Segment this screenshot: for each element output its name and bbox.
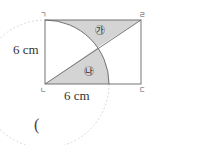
region-label-na: ㉯ [84, 63, 94, 78]
vertex-bottom-right: ㄷ [139, 84, 145, 94]
region-ga-shade [45, 20, 141, 48]
vertex-top-left: ㄱ [40, 9, 46, 19]
answer-blank-paren: ( [34, 116, 39, 134]
vertex-bottom-left: ㄴ [40, 84, 46, 94]
vertex-top-right: ㄹ [139, 9, 145, 19]
width-dimension-label: 6 cm [64, 88, 90, 104]
region-na-shade [45, 48, 109, 84]
height-dimension-label: 6 cm [13, 42, 39, 58]
region-label-ga: ㉮ [95, 22, 105, 37]
geometry-figure: ㄱ ㄴ ㄷ ㄹ ㉮ ㉯ 6 cm 6 cm [0, 0, 198, 145]
